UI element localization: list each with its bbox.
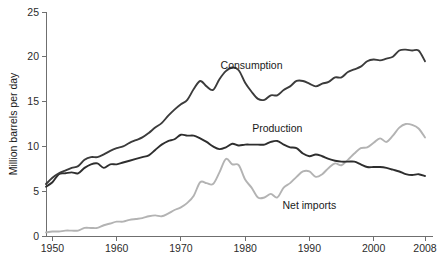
x-tick-label: 1960 <box>105 242 129 254</box>
series-line-net-imports <box>46 124 425 233</box>
series-label-production: Production <box>252 122 302 134</box>
y-tick-label: 10 <box>27 140 39 152</box>
oil-chart-figure: 0510152025 1950196019701980199020002008 … <box>0 0 440 262</box>
y-axis: 0510152025 <box>27 6 46 242</box>
series-label-net-imports: Net imports <box>283 199 337 211</box>
series-label-consumption: Consumption <box>221 59 283 71</box>
y-tick-label: 20 <box>27 50 39 62</box>
y-axis-title: Million barrels per day <box>7 72 19 175</box>
x-tick-label: 1990 <box>298 242 322 254</box>
series-line-production <box>46 135 425 187</box>
y-tick-label: 15 <box>27 95 39 107</box>
x-tick-label: 1950 <box>41 242 65 254</box>
x-tick-label: 1980 <box>233 242 257 254</box>
x-axis: 1950196019701980199020002008 <box>41 236 437 254</box>
chart-canvas: 0510152025 1950196019701980199020002008 … <box>0 0 440 262</box>
y-tick-label: 0 <box>33 230 39 242</box>
series-lines <box>46 50 425 233</box>
y-tick-label: 25 <box>27 6 39 18</box>
x-tick-label: 2008 <box>413 242 437 254</box>
y-tick-label: 5 <box>33 185 39 197</box>
series-labels: ConsumptionProductionNet imports <box>221 59 337 211</box>
x-tick-label: 1970 <box>169 242 193 254</box>
x-tick-label: 2000 <box>362 242 386 254</box>
